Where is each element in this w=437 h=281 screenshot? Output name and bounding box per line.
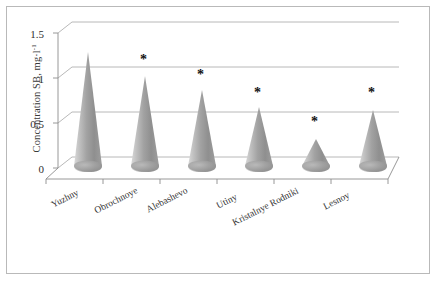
cone-kristalnye-rodniki (302, 139, 330, 172)
x-tick-marks (46, 179, 388, 184)
cone-utiny (245, 107, 273, 172)
floor-left-edge (46, 168, 58, 179)
significance-marker-alebashevo: * (197, 70, 204, 80)
significance-marker-kristalnye-rodniki: * (311, 117, 318, 127)
gridline-0_5 (58, 112, 399, 123)
gridline-1 (58, 67, 399, 78)
y-tick-marks (53, 33, 58, 168)
chart-canvas (0, 0, 437, 281)
gridlines (58, 22, 399, 168)
cone-alebashevo (188, 90, 216, 172)
cone-obrochnoye (131, 76, 159, 172)
plot-area: Concentration SB, mg·l-1 1.5 1 0.5 0 (0, 0, 437, 281)
floor-right-edge (388, 157, 399, 179)
significance-marker-utiny: * (254, 88, 261, 98)
gridline-0 (58, 157, 399, 168)
significance-marker-obrochnoye: * (140, 55, 147, 65)
significance-marker-lesnoy: * (368, 88, 375, 98)
cone-lesnoy (359, 110, 387, 172)
chart-figure: Concentration SB, mg·l-1 1.5 1 0.5 0 (0, 0, 437, 281)
gridline-1_5 (58, 22, 399, 33)
